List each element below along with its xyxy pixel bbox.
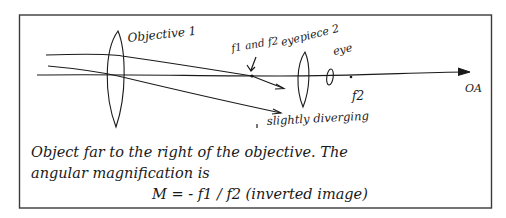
- label-optical-axis: OA: [465, 82, 482, 95]
- label-objective: Objective 1: [127, 24, 197, 45]
- ray-diverging-1: [252, 76, 283, 88]
- arrow-ray-1-icon: [275, 84, 284, 89]
- ray-diagram: Objective 1 f1 and f2 eyepiece 2 eye f2 …: [0, 0, 506, 218]
- ray-middle: [48, 66, 281, 113]
- diagram-canvas: Objective 1 f1 and f2 eyepiece 2 eye f2 …: [0, 0, 506, 218]
- focal-point-f1-dot: [250, 74, 253, 77]
- axis-arrowhead-icon: [458, 68, 470, 76]
- label-eye: eye: [332, 41, 354, 58]
- objective-lens: [107, 31, 124, 127]
- label-f2: f2: [351, 89, 364, 103]
- label-slightly-diverging: slightly diverging: [266, 109, 369, 128]
- caption-line-2: angular magnification is: [31, 165, 210, 181]
- ray-upper: [46, 54, 252, 76]
- caption-line-1: Object far to the right of the objective…: [31, 144, 348, 160]
- focal-point-f2-dot: [350, 76, 353, 79]
- focal-pointer-arrow-icon: [247, 57, 256, 71]
- eye-icon: [326, 69, 335, 86]
- eyepiece-lens: [298, 52, 309, 107]
- label-focal-f1-f2: f1 and f2: [229, 34, 279, 54]
- caption-line-3: M = - f1 / f2 (inverted image): [151, 186, 368, 202]
